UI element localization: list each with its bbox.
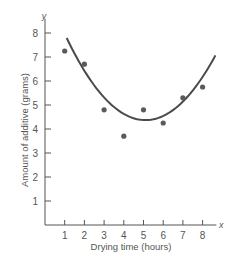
y-tick-label: 5 bbox=[32, 100, 38, 111]
x-tick-label: 1 bbox=[62, 230, 68, 241]
curve-layer bbox=[67, 38, 216, 120]
data-point bbox=[161, 120, 166, 125]
points-layer bbox=[62, 48, 205, 138]
x-tick-label: 7 bbox=[180, 230, 186, 241]
axes bbox=[45, 19, 216, 225]
data-point bbox=[82, 62, 87, 67]
y-tick-label: 3 bbox=[32, 148, 38, 159]
x-tick-label: 8 bbox=[200, 230, 206, 241]
x-tick-label: 6 bbox=[160, 230, 166, 241]
ticks: 1234567812345678 bbox=[32, 28, 205, 242]
data-point bbox=[62, 48, 67, 53]
x-tick-label: 2 bbox=[82, 230, 88, 241]
x-tick-label: 5 bbox=[141, 230, 147, 241]
y-tick-label: 2 bbox=[32, 172, 38, 183]
data-point bbox=[200, 84, 205, 89]
y-axis-name: y bbox=[41, 11, 47, 21]
y-tick-label: 4 bbox=[32, 124, 38, 135]
x-axis-label: Drying time (hours) bbox=[91, 241, 172, 252]
y-tick-label: 8 bbox=[32, 28, 38, 39]
data-point bbox=[121, 134, 126, 139]
y-tick-label: 7 bbox=[32, 52, 38, 63]
y-tick-label: 6 bbox=[32, 76, 38, 87]
y-tick-label: 1 bbox=[32, 196, 38, 207]
x-axis-name: x bbox=[218, 220, 224, 230]
data-point bbox=[180, 95, 185, 100]
data-point bbox=[102, 107, 107, 112]
x-tick-label: 3 bbox=[101, 230, 107, 241]
data-point bbox=[141, 107, 146, 112]
y-axis-label: Amount of additive (grams) bbox=[19, 73, 30, 187]
x-tick-label: 4 bbox=[121, 230, 127, 241]
chart: 1234567812345678 Drying time (hours) Amo… bbox=[0, 0, 234, 270]
fitted-curve bbox=[67, 38, 216, 120]
